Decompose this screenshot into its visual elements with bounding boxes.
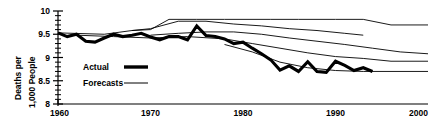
death-rate-line-chart: Deaths per 1,000 People 88.599.510 19601… — [0, 0, 430, 121]
data-series-group — [58, 19, 428, 72]
y-tick-label: 9.5 — [38, 29, 50, 39]
x-tick-label: 1970 — [141, 108, 160, 118]
x-tick-label: 1980 — [234, 108, 253, 118]
chart-legend: ActualForecasts — [83, 62, 148, 88]
y-tick-label: 10 — [41, 6, 51, 16]
y-axis-tick-labels: 88.599.510 — [38, 6, 50, 109]
plot-area: 88.599.510 19601970198019902000 ActualFo… — [0, 0, 430, 121]
series-line-forecast — [58, 19, 428, 34]
legend-label-actual: Actual — [83, 62, 109, 72]
y-tick-label: 8.5 — [38, 76, 50, 86]
x-tick-label: 1990 — [326, 108, 345, 118]
legend-label-forecasts: Forecasts — [83, 78, 123, 88]
x-tick-label: 1960 — [50, 108, 69, 118]
x-axis-tick-labels: 19601970198019902000 — [50, 100, 428, 118]
y-tick-label: 9 — [45, 53, 50, 63]
x-tick-label: 2000 — [409, 108, 428, 118]
